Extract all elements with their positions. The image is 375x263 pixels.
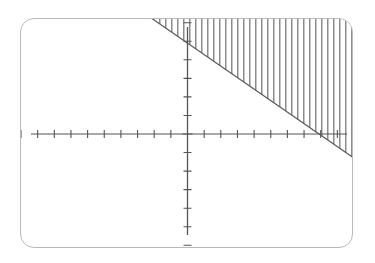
calculator-screen-frame: y = -0.62x + 4.9 region above the bounda…: [20, 18, 353, 248]
graph-plot: [21, 19, 353, 248]
screenshot-root: y = -0.62x + 4.9 region above the bounda…: [0, 0, 375, 263]
